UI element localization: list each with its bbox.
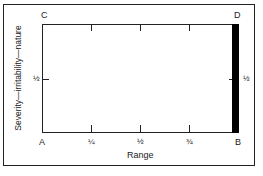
y-tick-label-right-half: ½ xyxy=(243,75,250,83)
x-tick-label-half: ½ xyxy=(137,138,144,146)
corner-label-b: B xyxy=(235,138,241,147)
y-axis-title: Severity—irritability—nature xyxy=(13,13,23,143)
highlight-bar-bd xyxy=(232,24,239,133)
corner-label-d: D xyxy=(234,11,241,20)
y-tick-label-left-half: ½ xyxy=(33,75,40,83)
x-axis-title: Range xyxy=(127,151,154,160)
x-tick-label-three-quarter: ¾ xyxy=(186,138,193,146)
x-tick-label-quarter: ¼ xyxy=(88,138,95,146)
corner-label-c: C xyxy=(41,11,48,20)
corner-label-a: A xyxy=(39,138,45,147)
